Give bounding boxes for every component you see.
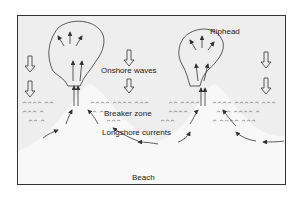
svg-text:^^^^ ^^^^^ ^^^: ^^^^ ^^^^^ ^^^ — [212, 100, 276, 107]
svg-text:^^^: ^^^ — [160, 118, 175, 125]
svg-text:^^^^ ^^: ^^^^ ^^ — [22, 100, 54, 107]
svg-text:^^^ ^: ^^^ ^ — [22, 109, 44, 116]
diagram-frame: ^^^^ ^^ ^^^^ ^^^^ ^^^ ^^ ^^^^ ^^^^ ^^^^^… — [17, 15, 286, 185]
svg-text:^^^^ ^^^^ ^^^: ^^^^ ^^^^ ^^^ — [90, 100, 149, 107]
riphead-label: Riphead — [210, 27, 240, 36]
diagram-graphic: ^^^^ ^^ ^^^^ ^^^^ ^^^ ^^ ^^^^ ^^^^ ^^^^^… — [18, 16, 286, 185]
svg-text:^^^: ^^^ — [106, 118, 121, 125]
longshore-currents-label: Longshore currents — [102, 128, 171, 137]
riphead-left — [49, 21, 104, 86]
svg-text:^^ ^: ^^ ^ — [28, 118, 45, 125]
svg-text:^^^^: ^^^^ — [168, 109, 188, 116]
breaker-zone-label: Breaker zone — [104, 109, 152, 118]
riphead-right — [179, 29, 224, 86]
svg-text:^^^ ^^^^ ^: ^^^ ^^^^ ^ — [216, 109, 260, 116]
beach-label: Beach — [132, 173, 155, 182]
onshore-waves-label: Onshore waves — [101, 66, 157, 75]
svg-text:^^ ^^^^: ^^ ^^^^ — [168, 100, 200, 107]
svg-text:^ ^^^^ ^^^: ^ ^^^^ ^^^ — [212, 118, 256, 125]
